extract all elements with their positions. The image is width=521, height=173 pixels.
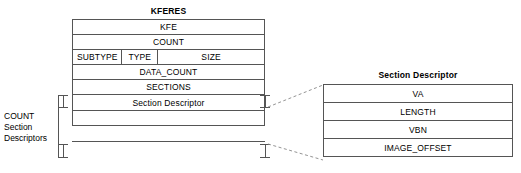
brace-label-line1: COUNT: [4, 111, 47, 122]
kferes-row-section-descriptor-label: Section Descriptor: [132, 98, 204, 108]
kferes-cell-type: TYPE: [122, 50, 158, 64]
section-descriptor-struct: VA LENGTH VBN IMAGE_OFFSET: [323, 84, 513, 160]
section-descriptor-title: Section Descriptor: [323, 70, 513, 80]
kferes-row-trailing: [72, 141, 265, 142]
kferes-title: KFERES: [72, 6, 265, 16]
brace-label-line2: Section: [4, 122, 47, 133]
kferes-row-kfe-label: KFE: [160, 22, 177, 32]
kferes-row-kfe: KFE: [72, 19, 265, 35]
kferes-cell-subtype-label: SUBTYPE: [77, 52, 118, 62]
brace-label-line3: Descriptors: [4, 133, 47, 144]
section-descriptor-row-length: LENGTH: [323, 102, 513, 121]
kferes-row-count: COUNT: [72, 34, 265, 50]
section-descriptor-row-length-label: LENGTH: [400, 107, 435, 117]
expansion-connector-lines: [268, 85, 323, 160]
section-descriptor-row-vbn-label: VBN: [409, 125, 427, 135]
kferes-cell-subtype: SUBTYPE: [73, 50, 122, 64]
count-section-descriptors-label: COUNT Section Descriptors: [4, 111, 47, 144]
kferes-row-data-count-label: DATA_COUNT: [140, 67, 198, 77]
section-descriptor-row-image-offset: IMAGE_OFFSET: [323, 138, 513, 157]
kferes-diagram: KFERES KFE COUNT SUBTYPE TYPE SIZE DATA_…: [0, 0, 521, 173]
kferes-row-section-descriptor-continued: [72, 110, 265, 126]
kferes-cell-size-label: SIZE: [201, 52, 221, 62]
section-descriptor-row-image-offset-label: IMAGE_OFFSET: [384, 143, 451, 153]
kferes-row-subtype-type-size: SUBTYPE TYPE SIZE: [72, 49, 265, 65]
kferes-row-sections-label: SECTIONS: [146, 82, 191, 92]
kferes-row-sections: SECTIONS: [72, 79, 265, 95]
kferes-struct: KFE COUNT SUBTYPE TYPE SIZE DATA_COUNT S…: [72, 19, 265, 157]
kferes-cell-size: SIZE: [158, 50, 264, 64]
kferes-row-section-descriptor: Section Descriptor: [72, 94, 265, 111]
section-descriptor-row-vbn: VBN: [323, 120, 513, 139]
section-descriptor-row-va-label: VA: [412, 89, 423, 99]
kferes-row-data-count: DATA_COUNT: [72, 64, 265, 80]
left-tick-marks: [58, 95, 68, 157]
kferes-cell-type-label: TYPE: [128, 52, 151, 62]
section-descriptor-row-va: VA: [323, 84, 513, 103]
kferes-row-count-label: COUNT: [153, 37, 184, 47]
